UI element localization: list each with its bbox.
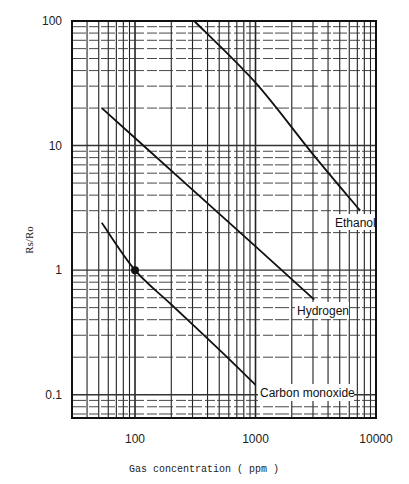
series-lines (102, 21, 360, 385)
y-tick-label: 10 (49, 139, 63, 153)
y-tick-label: 0.1 (45, 388, 62, 402)
x-tick-label: 100 (125, 432, 145, 446)
x-axis-label: Gas concentration ( ppm ) (129, 464, 279, 475)
y-tick-labels: 1001010.1 (42, 14, 62, 402)
carbon-monoxide-label: Carbon monoxide (260, 386, 355, 400)
carbon-monoxide-line (102, 223, 256, 385)
hydrogen-label: Hydrogen (297, 304, 349, 318)
grid (72, 21, 376, 418)
x-tick-label: 10000 (359, 432, 393, 446)
ethanol-label: Ethanol (335, 216, 376, 230)
plot-frame (72, 21, 376, 418)
x-tick-labels: 100100010000 (125, 432, 393, 446)
x-tick-label: 1000 (242, 432, 269, 446)
y-tick-label: 100 (42, 14, 62, 28)
reference-point-marker (131, 266, 139, 274)
y-axis-label: Rs/Ro (23, 226, 35, 254)
y-tick-label: 1 (55, 263, 62, 277)
sensitivity-chart: 1001010.1 100100010000 Ethanol Hydrogen … (0, 0, 409, 484)
